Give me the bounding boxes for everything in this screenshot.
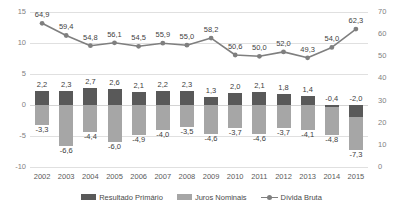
legend-line-marker-icon — [261, 194, 278, 200]
y-axis-left-tick: 10 — [2, 39, 26, 47]
y-axis-right-tick: 20 — [378, 119, 400, 127]
legend-label: Juros Nominais — [195, 193, 247, 202]
bar-segment-juros-nominais — [132, 105, 146, 135]
line-value-label-divida-bruta: 58,2 — [195, 26, 227, 34]
line-value-label-divida-bruta: 64,9 — [26, 11, 58, 19]
y-axis-right-tick: 50 — [378, 52, 400, 60]
bar-segment-juros-nominais — [156, 105, 170, 130]
bar-segment-juros-nominais — [325, 107, 339, 134]
line-value-label-divida-bruta: 59,4 — [50, 23, 82, 31]
bar-segment-juros-nominais — [349, 117, 363, 150]
bar-segment-juros-nominais — [35, 105, 49, 125]
legend-swatch-icon — [177, 194, 192, 200]
bar-value-label-juros-nominais: -6,0 — [99, 143, 131, 151]
y-axis-right-tick: 10 — [378, 141, 400, 149]
bar-segment-juros-nominais — [108, 105, 122, 142]
y-axis-right-tick: 0 — [378, 163, 400, 171]
bar-segment-resultado-primario — [59, 91, 73, 105]
gridline — [30, 74, 368, 75]
bar-segment-resultado-primario — [252, 92, 266, 105]
y-axis-left-tick: 15 — [2, 8, 26, 16]
bar-segment-resultado-primario — [301, 96, 315, 105]
line-value-label-divida-bruta: 49,3 — [292, 46, 324, 54]
bar-segment-resultado-primario — [83, 88, 97, 105]
legend-label: Resultado Primário — [99, 193, 163, 202]
bar-segment-juros-nominais — [228, 105, 242, 128]
bar-segment-juros-nominais — [83, 105, 97, 132]
x-axis-tick-label: 2015 — [340, 172, 372, 181]
bar-segment-juros-nominais — [252, 105, 266, 134]
bar-segment-juros-nominais — [180, 105, 194, 127]
legend-swatch-icon — [81, 194, 96, 200]
bar-segment-resultado-primario — [108, 89, 122, 105]
bar-value-label-resultado-primario: 1,4 — [292, 86, 324, 94]
line-value-label-divida-bruta: 55,0 — [171, 33, 203, 41]
bar-segment-resultado-primario — [132, 92, 146, 105]
chart-legend: Resultado PrimárioJuros NominaisDívida B… — [0, 190, 403, 204]
bar-segment-resultado-primario — [349, 105, 363, 117]
bar-value-label-juros-nominais: -4,8 — [316, 136, 348, 144]
bar-segment-resultado-primario — [325, 105, 339, 107]
y-axis-left-tick: 0 — [2, 101, 26, 109]
legend-label: Dívida Bruta — [281, 193, 322, 202]
bar-segment-resultado-primario — [228, 93, 242, 105]
bar-segment-juros-nominais — [204, 105, 218, 134]
bar-segment-resultado-primario — [204, 97, 218, 105]
chart-container: 151050-5-107060504030201002,2-3,320022,3… — [0, 0, 403, 210]
legend-item[interactable]: Resultado Primário — [81, 193, 163, 202]
bar-segment-resultado-primario — [35, 91, 49, 105]
y-axis-right-tick: 70 — [378, 8, 400, 16]
gridline — [30, 12, 368, 13]
zero-baseline — [30, 105, 368, 106]
bar-segment-juros-nominais — [59, 105, 73, 146]
y-axis-right-tick: 60 — [378, 30, 400, 38]
y-axis-left-tick: -5 — [2, 132, 26, 140]
bar-segment-juros-nominais — [277, 105, 291, 128]
legend-item[interactable]: Juros Nominais — [177, 193, 247, 202]
legend-item[interactable]: Dívida Bruta — [261, 193, 322, 202]
bar-value-label-resultado-primario: -2,0 — [340, 95, 372, 103]
bar-segment-resultado-primario — [180, 91, 194, 105]
y-axis-right-tick: 40 — [378, 74, 400, 82]
y-axis-right-tick: 30 — [378, 97, 400, 105]
bar-value-label-juros-nominais: -6,6 — [50, 147, 82, 155]
y-axis-left-tick: -10 — [2, 163, 26, 171]
bar-value-label-juros-nominais: -7,3 — [340, 151, 372, 159]
bar-segment-juros-nominais — [301, 105, 315, 130]
bar-value-label-juros-nominais: -3,3 — [26, 126, 58, 134]
bar-segment-resultado-primario — [277, 94, 291, 105]
y-axis-left-tick: 5 — [2, 70, 26, 78]
gridline — [30, 167, 368, 168]
bar-segment-resultado-primario — [156, 91, 170, 105]
line-value-label-divida-bruta: 62,3 — [340, 17, 372, 25]
line-value-label-divida-bruta: 54,0 — [316, 35, 348, 43]
bar-value-label-juros-nominais: -4,4 — [74, 133, 106, 141]
